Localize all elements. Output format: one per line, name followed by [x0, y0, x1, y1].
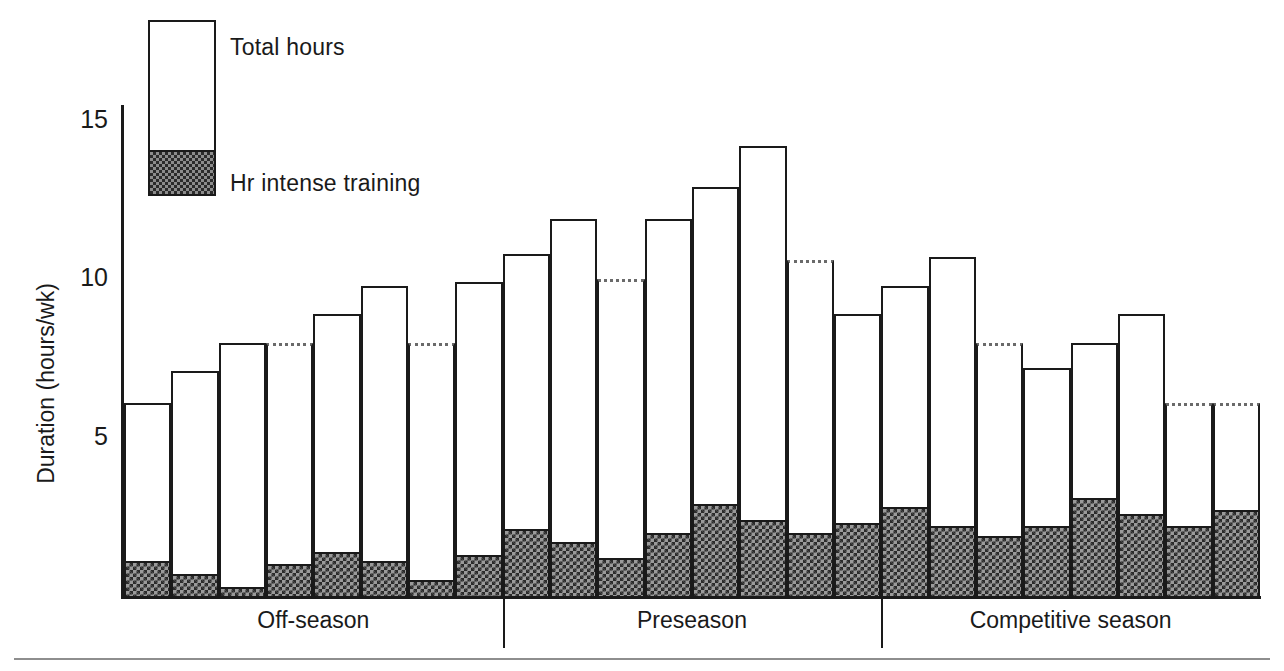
bar-intense-segment-7: [408, 580, 455, 596]
y-tick-label-5: 5: [62, 424, 108, 449]
bar-19[interactable]: [976, 343, 1023, 596]
bar-2[interactable]: [171, 371, 218, 596]
bar-intense-segment-13: [692, 504, 739, 596]
chart-figure: Total hours Hr intense training Duration…: [0, 0, 1284, 671]
bar-18[interactable]: [929, 257, 976, 596]
bar-intense-segment-5: [313, 552, 360, 596]
season-label-preseason: Preseason: [503, 607, 882, 634]
bar-intense-segment-2: [171, 574, 218, 596]
bar-5[interactable]: [313, 314, 360, 596]
bar-15[interactable]: [787, 260, 834, 596]
legend-label-total-hours: Total hours: [230, 34, 345, 61]
bar-6[interactable]: [361, 286, 408, 596]
bar-11[interactable]: [597, 279, 644, 596]
bar-21[interactable]: [1071, 343, 1118, 596]
bar-intense-segment-4: [266, 564, 313, 596]
bar-intense-segment-20: [1023, 526, 1070, 596]
footer-rule: [14, 658, 1270, 660]
bar-12[interactable]: [645, 219, 692, 596]
bar-8[interactable]: [455, 282, 502, 596]
bars-plot-area: [124, 105, 1260, 596]
bar-intense-segment-17: [881, 507, 928, 596]
y-tick-label-15: 15: [62, 107, 108, 132]
bar-14[interactable]: [739, 146, 786, 596]
bar-intense-segment-23: [1165, 526, 1212, 596]
bar-13[interactable]: [692, 187, 739, 596]
bar-1[interactable]: [124, 403, 171, 596]
bar-intense-segment-16: [834, 523, 881, 596]
bar-23[interactable]: [1165, 403, 1212, 596]
y-axis-title: Duration (hours/wk): [33, 234, 60, 534]
bar-20[interactable]: [1023, 368, 1070, 596]
bar-intense-segment-8: [455, 555, 502, 596]
x-axis-line: [121, 596, 1261, 599]
bar-intense-segment-19: [976, 536, 1023, 596]
bar-9[interactable]: [503, 254, 550, 596]
bar-intense-segment-18: [929, 526, 976, 596]
bar-intense-segment-10: [550, 542, 597, 596]
season-label-off-season: Off-season: [124, 607, 503, 634]
bar-7[interactable]: [408, 343, 455, 596]
y-tick-label-10: 10: [62, 265, 108, 290]
bar-intense-segment-24: [1213, 510, 1260, 596]
bar-intense-segment-12: [645, 533, 692, 596]
bar-intense-segment-14: [739, 520, 786, 596]
bar-4[interactable]: [266, 343, 313, 596]
bar-intense-segment-11: [597, 558, 644, 596]
bar-intense-segment-9: [503, 529, 550, 596]
bar-intense-segment-15: [787, 533, 834, 596]
bar-16[interactable]: [834, 314, 881, 596]
season-label-competitive-season: Competitive season: [881, 607, 1260, 634]
bar-intense-segment-3: [219, 587, 266, 597]
bar-intense-segment-1: [124, 561, 171, 596]
bar-10[interactable]: [550, 219, 597, 596]
bar-17[interactable]: [881, 286, 928, 596]
bar-intense-segment-6: [361, 561, 408, 596]
bar-intense-segment-21: [1071, 498, 1118, 596]
bar-intense-segment-22: [1118, 514, 1165, 596]
bar-22[interactable]: [1118, 314, 1165, 596]
bar-24[interactable]: [1213, 403, 1260, 596]
bar-3[interactable]: [219, 343, 266, 596]
